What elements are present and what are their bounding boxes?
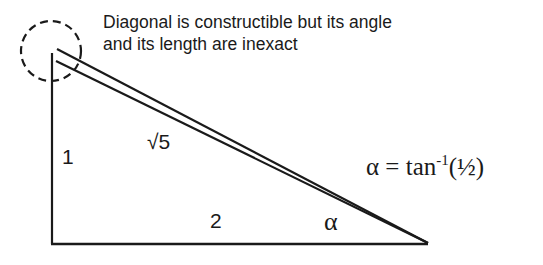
caption-line-2: and its length are inexact <box>103 33 392 55</box>
caption-line-1: Diagonal is constructible but its angle <box>103 11 392 33</box>
label-vertical-side: 1 <box>62 145 74 169</box>
formula-exponent: -1 <box>436 152 449 168</box>
caption: Diagonal is constructible but its angle … <box>103 11 392 55</box>
formula-lhs: α = tan <box>366 153 436 180</box>
label-hypotenuse: √5 <box>147 130 170 154</box>
label-angle: α <box>324 207 338 237</box>
diagram-canvas: Diagonal is constructible but its angle … <box>0 0 543 265</box>
formula-argument: (½) <box>449 153 484 180</box>
angle-formula: α = tan-1(½) <box>366 152 484 181</box>
label-base: 2 <box>210 209 222 233</box>
diagonal-upper <box>57 49 428 243</box>
